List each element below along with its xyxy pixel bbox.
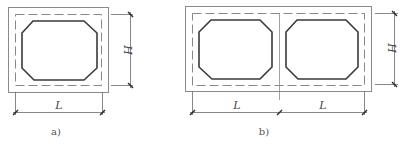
cell-opening — [22, 21, 97, 80]
cell-opening-right — [286, 20, 358, 79]
width-dimension: L L — [190, 91, 367, 115]
centerline-dashed — [193, 14, 365, 86]
width-label-right: L — [318, 99, 326, 112]
width-label-left: L — [232, 99, 240, 112]
width-label: L — [54, 99, 62, 112]
width-dimension: L — [13, 92, 105, 115]
box-culvert-diagram: H L a) H — [0, 0, 406, 146]
figure-b: H L L b) — [186, 7, 399, 138]
cell-opening-left — [199, 20, 272, 79]
caption-b: b) — [259, 126, 269, 137]
height-label: H — [121, 44, 134, 55]
height-dimension: H — [111, 12, 134, 88]
height-label: H — [385, 42, 398, 53]
height-dimension: H — [375, 11, 398, 87]
figure-a: H L a) — [9, 8, 135, 138]
caption-a: a) — [51, 126, 61, 137]
